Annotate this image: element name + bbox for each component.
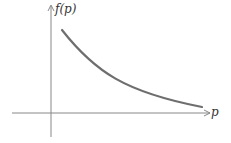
y-axis-label: f(p) — [55, 3, 77, 15]
curve-f-p — [62, 30, 202, 107]
x-axis-label: p — [211, 106, 219, 118]
chart — [0, 0, 231, 143]
